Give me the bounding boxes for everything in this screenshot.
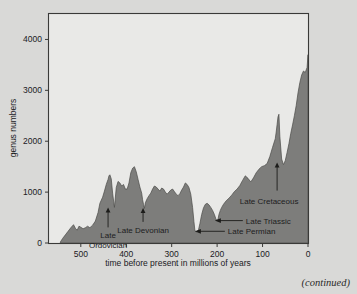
continued-note: (continued) bbox=[302, 277, 351, 289]
annotation-label-late-devonian: Late Devonian bbox=[117, 226, 169, 235]
x-tick-label: 100 bbox=[255, 249, 269, 259]
x-axis-title: time before present in millions of years bbox=[105, 258, 251, 268]
annotation-label-late-permian: Late Permian bbox=[228, 227, 276, 236]
genus-numbers-area-chart: 01000200030004000 5004003002001000 LateO… bbox=[0, 0, 357, 294]
y-tick-label: 4000 bbox=[23, 34, 42, 44]
x-tick-label: 0 bbox=[306, 249, 311, 259]
x-tick-label: 500 bbox=[74, 249, 88, 259]
annotation-label-late-triassic: Late Triassic bbox=[246, 217, 291, 226]
y-tick-label: 1000 bbox=[23, 187, 42, 197]
y-tick-label: 2000 bbox=[23, 136, 42, 146]
figure-container: 01000200030004000 5004003002001000 LateO… bbox=[0, 0, 357, 294]
y-tick-label: 3000 bbox=[23, 85, 42, 95]
y-tick-label: 0 bbox=[37, 238, 42, 248]
y-axis-title: genus numbers bbox=[8, 99, 18, 158]
annotation-label-late-cretaceous: Late Cretaceous bbox=[240, 197, 299, 206]
